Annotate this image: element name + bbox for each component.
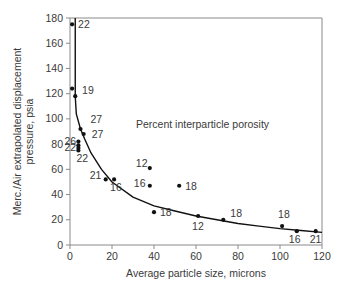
- data-point: [148, 184, 152, 188]
- data-point: [76, 139, 80, 143]
- point-label: 12: [192, 220, 204, 232]
- y-tick-label: 0: [57, 239, 63, 251]
- x-tick-label: 0: [67, 250, 73, 262]
- porosity-annotation: Percent interparticle porosity: [136, 118, 270, 130]
- data-point: [196, 214, 200, 218]
- data-point: [148, 166, 152, 170]
- y-tick-label: 140: [45, 62, 63, 74]
- point-label: 21: [90, 169, 102, 181]
- point-label: 18: [160, 206, 172, 218]
- y-axis-label-line: Merc./Air extrapolated displacement: [11, 48, 23, 216]
- data-point: [82, 132, 86, 136]
- point-label: 22: [76, 152, 88, 164]
- x-tick-label: 60: [190, 250, 202, 262]
- x-tick-label: 40: [148, 250, 160, 262]
- point-label: 27: [91, 113, 103, 125]
- y-tick-label: 80: [51, 138, 63, 150]
- point-label: 18: [278, 208, 290, 220]
- data-point: [221, 218, 225, 222]
- data-point: [70, 22, 74, 26]
- data-points: 221927272622222116121618181218181621: [64, 18, 321, 245]
- data-point: [177, 184, 181, 188]
- y-tick-label: 120: [45, 87, 63, 99]
- y-tick-label: 40: [51, 188, 63, 200]
- point-label: 27: [92, 128, 104, 140]
- data-point: [70, 87, 74, 91]
- y-tick-label: 180: [45, 12, 63, 24]
- data-point: [73, 94, 77, 98]
- y-axis-label: Merc./Air extrapolated displacementpress…: [11, 48, 35, 216]
- point-label: 22: [64, 141, 76, 153]
- data-point: [78, 127, 82, 131]
- data-point: [104, 177, 108, 181]
- y-tick-label: 20: [51, 213, 63, 225]
- point-label: 16: [110, 181, 122, 193]
- x-tick-label: 20: [106, 250, 118, 262]
- y-tick-label: 160: [45, 37, 63, 49]
- point-label: 18: [230, 207, 242, 219]
- point-label: 21: [310, 233, 322, 245]
- y-tick-label: 100: [45, 112, 63, 124]
- data-point: [280, 224, 284, 228]
- x-axis-label: Average particle size, microns: [126, 267, 266, 279]
- x-tick-label: 120: [313, 250, 331, 262]
- data-point: [152, 210, 156, 214]
- point-label: 16: [134, 177, 146, 189]
- point-label: 12: [136, 157, 148, 169]
- x-tick-label: 80: [232, 250, 244, 262]
- point-label: 19: [82, 84, 94, 96]
- y-tick-label: 60: [51, 163, 63, 175]
- point-label: 22: [78, 18, 90, 30]
- point-label: 16: [289, 233, 301, 245]
- point-label: 18: [185, 180, 197, 192]
- y-axis-label-line: pressure, psia: [23, 98, 35, 164]
- plot-axes: 020406080100120020406080100120140160180: [45, 12, 330, 263]
- x-tick-label: 100: [271, 250, 289, 262]
- scatter-chart: 020406080100120020406080100120140160180 …: [0, 0, 343, 293]
